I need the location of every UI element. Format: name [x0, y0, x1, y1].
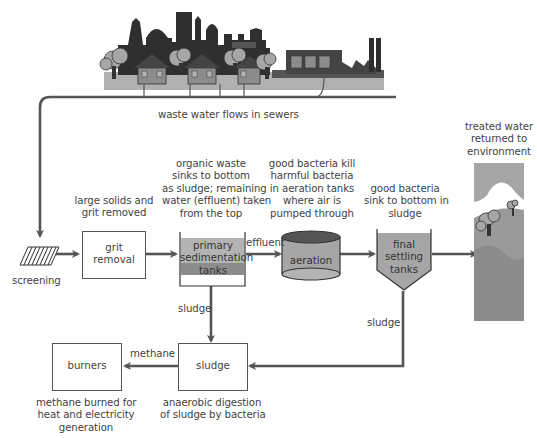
methane-label: methane	[130, 348, 175, 360]
final-settling-note: good bacteria sink to bottom in sludge	[364, 183, 446, 220]
burners-note: methane burned for heat and electricity …	[36, 397, 136, 434]
primary-note: organic waste sinks to bottom as sludge;…	[162, 158, 260, 220]
grit-removal-label: grit removal	[82, 242, 146, 267]
primary-tank-label: primary sedimentation tanks	[180, 240, 246, 277]
environment-illustration	[474, 163, 524, 321]
aeration-note: good bacteria kill harmful bacteria in a…	[266, 158, 358, 220]
sewer-flow-label: waste water flows in sewers	[158, 109, 299, 121]
grit-removal-note: large solids and grit removed	[74, 195, 154, 220]
burners-label: burners	[52, 360, 122, 372]
sludge-digester-label: sludge	[178, 360, 248, 372]
screening-label: screening	[12, 275, 61, 287]
aeration-label: aeration	[282, 255, 340, 267]
environment-note: treated water returned to environment	[462, 121, 536, 158]
sludge-primary-label: sludge	[178, 303, 211, 315]
sludge-digester-note: anaerobic digestion of sludge by bacteri…	[160, 397, 264, 422]
final-settling-label: final settling tanks	[377, 239, 431, 276]
sludge-final-label: sludge	[367, 317, 400, 329]
effluent-label: effluent	[246, 237, 285, 249]
screening-icon	[20, 247, 59, 265]
city-illustration	[100, 12, 384, 97]
